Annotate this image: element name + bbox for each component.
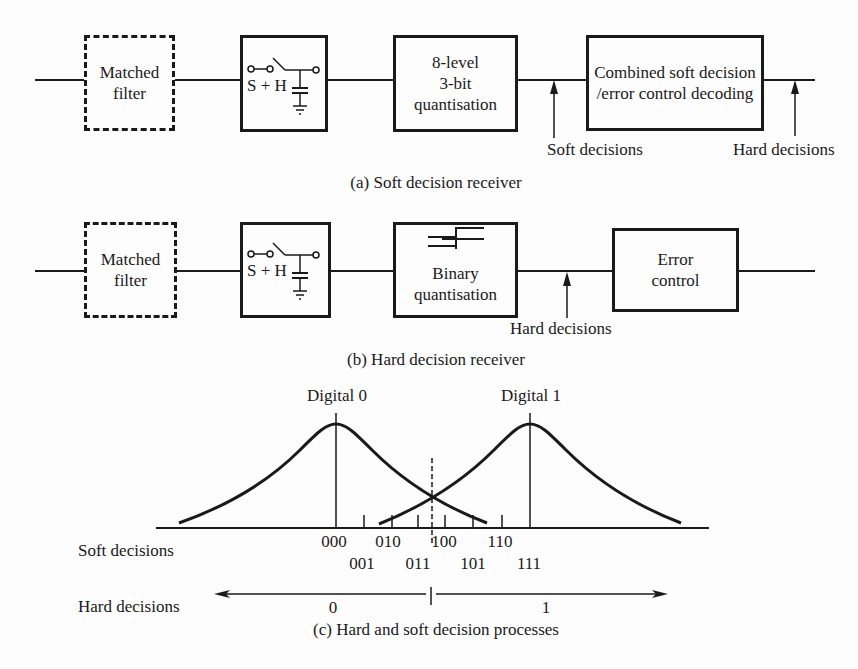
hard-level-label: 0 [329, 598, 338, 618]
soft-level-label: 000 [321, 532, 347, 552]
hard-level-label: 1 [542, 598, 551, 618]
digital-0-label: Digital 0 [307, 386, 367, 406]
soft-level-label: 110 [488, 532, 513, 552]
soft-level-label: 010 [375, 532, 401, 552]
digital-1-label: Digital 1 [501, 386, 561, 406]
soft-level-label: 101 [460, 554, 486, 574]
soft-level-label: 011 [406, 554, 431, 574]
soft-level-label: 100 [431, 532, 457, 552]
soft-decisions-row-label: Soft decisions [78, 541, 174, 561]
hard-decisions-row-label: Hard decisions [78, 597, 180, 617]
caption-c: (c) Hard and soft decision processes [313, 620, 559, 640]
soft-level-label: 111 [517, 554, 541, 574]
soft-level-label: 001 [349, 554, 375, 574]
